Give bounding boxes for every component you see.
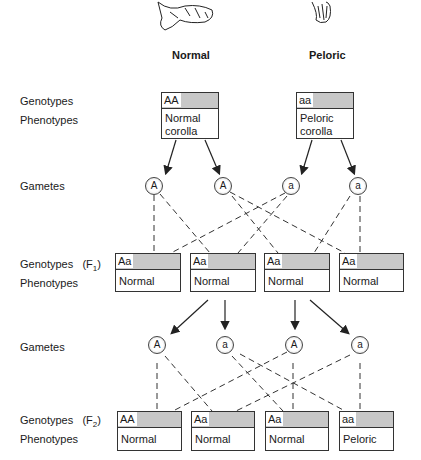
f1-box-2: Aa Normal [190, 253, 256, 292]
f2-tag: (F [82, 414, 92, 426]
phenotype: Normal [191, 270, 255, 291]
label-genotypes-parents: Genotypes [20, 95, 73, 107]
label-genotypes-f1-text: Genotypes [20, 258, 73, 270]
genotype: Aa [191, 254, 208, 268]
label-phenotypes-f1: Phenotypes [20, 277, 78, 289]
genotype: Aa [266, 412, 283, 426]
gamete-f1-3: A [285, 336, 303, 354]
gamete-f1-4: a [351, 336, 369, 354]
genotype: AA [162, 93, 181, 107]
phenotype-line2: corolla [300, 125, 332, 137]
gamete-p-2: A [214, 177, 232, 195]
label-genotypes-f1: Genotypes (F1) [20, 258, 101, 273]
label-gametes-f1: Gametes [20, 341, 65, 353]
normal-parent-title: Normal [172, 49, 210, 61]
genotype: Aa [192, 412, 209, 426]
gamete-p-3: a [282, 177, 300, 195]
cross-lines [0, 0, 421, 460]
genotype: aa [297, 93, 313, 107]
f1-close: ) [97, 258, 101, 270]
f1-box-1: Aa Normal [115, 253, 181, 292]
genotype: Aa [340, 254, 357, 268]
gamete-p-1: A [145, 177, 163, 195]
phenotype: Normal [340, 270, 403, 291]
genotype: aa [340, 412, 356, 426]
normal-flower-icon [158, 2, 213, 30]
phenotype: Normal [265, 270, 329, 291]
gamete-f1-2: a [216, 336, 234, 354]
parent-box-peloric: aa Peloriccorolla [296, 92, 354, 139]
phenotype: Peloric [340, 428, 393, 449]
phenotype-line1: Normal [165, 112, 200, 124]
f2-close: ) [97, 414, 101, 426]
peloric-parent-title: Peloric [309, 49, 346, 61]
label-phenotypes-f2: Phenotypes [20, 433, 78, 445]
label-gametes-parents: Gametes [20, 180, 65, 192]
label-genotypes-f2-text: Genotypes [20, 414, 73, 426]
label-phenotypes-parents: Phenotypes [20, 114, 78, 126]
phenotype: Normal [192, 428, 254, 449]
phenotype: Normal [118, 428, 181, 449]
genotype: AA [118, 412, 137, 426]
genotype: Aa [265, 254, 282, 268]
f2-box-4: aa Peloric [339, 411, 394, 451]
f1-box-3: Aa Normal [264, 253, 330, 292]
phenotype-line2: corolla [165, 125, 197, 137]
f2-box-3: Aa Normal [265, 411, 329, 451]
f1-box-4: Aa Normal [339, 253, 404, 292]
gamete-p-4: a [349, 177, 367, 195]
f2-box-2: Aa Normal [191, 411, 255, 451]
parent-box-normal: AA Normalcorolla [161, 92, 219, 139]
phenotype: Normal [116, 270, 180, 291]
gamete-f1-1: A [148, 336, 166, 354]
genotype: Aa [116, 254, 133, 268]
phenotype-line1: Peloric [300, 112, 334, 124]
peloric-flower-icon [312, 2, 331, 23]
phenotype: Normal [266, 428, 328, 449]
f2-box-1: AA Normal [117, 411, 182, 451]
f1-tag: (F [82, 258, 92, 270]
label-genotypes-f2: Genotypes (F2) [20, 414, 101, 429]
